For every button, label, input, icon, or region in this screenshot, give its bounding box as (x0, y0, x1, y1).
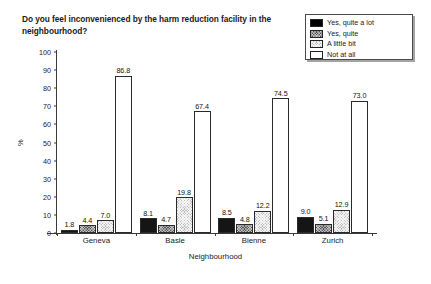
y-tick-label: 80 (43, 84, 51, 93)
bar-value-label: 12.2 (256, 201, 270, 210)
y-tick-mark (54, 178, 57, 179)
y-tick-mark (54, 142, 57, 143)
bar-value-label: 74.5 (274, 89, 288, 98)
x-axis-tick-labels: GenevaBasleBienneZurich (47, 236, 377, 250)
y-tick-mark (54, 196, 57, 197)
bar: 4.7 (158, 225, 175, 234)
bar: 4.4 (79, 225, 96, 233)
y-tick-label: 60 (43, 120, 51, 129)
y-tick-label: 100 (39, 48, 51, 57)
bar: 73.0 (351, 101, 368, 233)
bar: 5.1 (315, 224, 332, 233)
bar: 12.2 (254, 211, 271, 233)
bar: 74.5 (272, 98, 289, 233)
x-axis-tick-mark (136, 233, 137, 236)
bar-value-label: 67.4 (195, 102, 209, 111)
bar: 8.5 (218, 218, 235, 233)
y-axis-label: % (16, 139, 25, 146)
y-tick-label: 50 (43, 138, 51, 147)
bar-value-label: 5.1 (319, 214, 329, 223)
bar: 12.9 (333, 210, 350, 233)
bar-value-label: 86.8 (116, 66, 130, 75)
x-axis-category-label: Basle (165, 236, 185, 245)
x-axis-title: Neighbourhood (0, 252, 431, 261)
bar-value-label: 1.8 (64, 220, 74, 229)
legend-swatch-icon (310, 30, 323, 38)
bar-value-label: 8.1 (143, 209, 153, 218)
bar-value-label: 12.9 (335, 200, 349, 209)
y-tick-label: 10 (43, 210, 51, 219)
bar-value-label: 4.8 (240, 215, 250, 224)
y-tick-label: 30 (43, 174, 51, 183)
legend-swatch-icon (310, 40, 323, 48)
y-tick-mark (54, 160, 57, 161)
bar: 9.0 (297, 217, 314, 233)
x-axis-tick-mark (215, 233, 216, 236)
y-tick-mark (54, 106, 57, 107)
legend-label: A little bit (327, 40, 356, 48)
x-axis-category-label: Zurich (322, 236, 344, 245)
y-tick-mark (54, 88, 57, 89)
bar-value-label: 19.8 (177, 188, 191, 197)
legend-label: Yes, quite (327, 30, 358, 38)
bar: 1.8 (61, 230, 78, 233)
bar: 8.1 (140, 218, 157, 233)
bar-group: 9.05.112.973.0 (297, 52, 368, 233)
plot-area: 01020304050607080901001.84.47.086.88.14.… (57, 52, 372, 233)
x-axis-category-label: Bienne (242, 236, 266, 245)
legend-item-a-little-bit: A little bit (310, 39, 412, 49)
y-tick-mark (54, 124, 57, 125)
bar-value-label: 4.4 (82, 216, 92, 225)
bar-value-label: 8.5 (222, 208, 232, 217)
bar-group: 1.84.47.086.8 (61, 52, 132, 233)
bar: 86.8 (115, 76, 132, 233)
x-axis-tick-mark (57, 233, 58, 236)
bar-group: 8.14.719.867.4 (140, 52, 211, 233)
bar-value-label: 73.0 (353, 91, 367, 100)
x-axis-tick-mark (293, 233, 294, 236)
legend-swatch-icon (310, 19, 323, 27)
chart-title: Do you feel inconvenienced by the harm r… (22, 13, 287, 37)
bar: 19.8 (176, 197, 193, 233)
y-tick-label: 90 (43, 66, 51, 75)
y-tick-label: 20 (43, 192, 51, 201)
legend-label: Yes, quite a lot (327, 19, 374, 27)
y-tick-mark (54, 70, 57, 71)
bar-group: 8.54.812.274.5 (218, 52, 289, 233)
legend-item-yes-quite-a-lot: Yes, quite a lot (310, 18, 412, 28)
x-axis-tick-mark (372, 233, 373, 236)
bar: 7.0 (97, 220, 114, 233)
x-axis-category-label: Geneva (83, 236, 110, 245)
x-axis-line (47, 233, 377, 234)
bar-chart: Do you feel inconvenienced by the harm r… (0, 0, 431, 284)
bar: 4.8 (236, 224, 253, 233)
bar: 67.4 (194, 111, 211, 233)
y-tick-label: 40 (43, 156, 51, 165)
legend-item-yes-quite: Yes, quite (310, 29, 412, 39)
y-tick-mark (54, 214, 57, 215)
bar-value-label: 7.0 (100, 211, 110, 220)
bar-value-label: 4.7 (161, 215, 171, 224)
y-tick-label: 70 (43, 102, 51, 111)
bar-value-label: 9.0 (301, 207, 311, 216)
y-tick-mark (54, 52, 57, 53)
